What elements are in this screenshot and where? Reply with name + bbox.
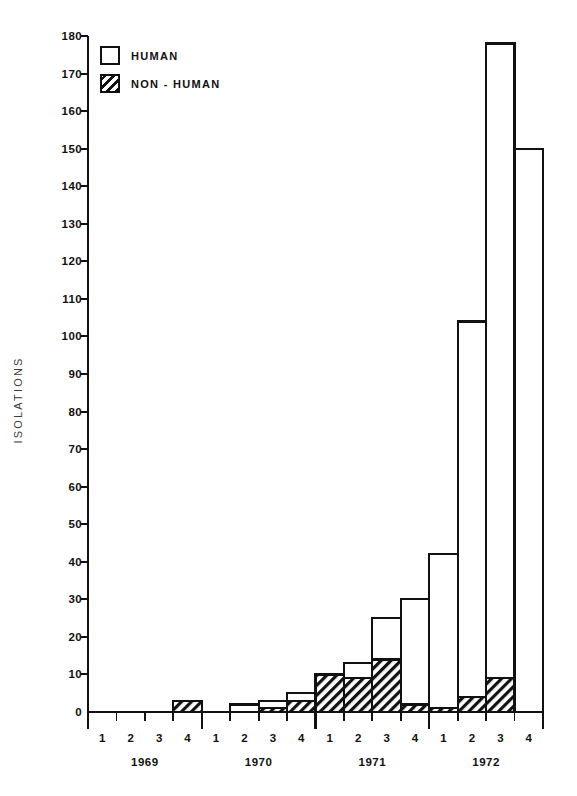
y-axis-tick-label: 40 bbox=[48, 556, 82, 568]
y-axis-tick-label: 100 bbox=[48, 330, 82, 342]
y-axis-tick-label: 150 bbox=[48, 143, 82, 155]
y-axis-tick-label: 180 bbox=[48, 30, 82, 42]
x-axis-quarter-label: 1 bbox=[327, 732, 333, 744]
bar-segment-non-human bbox=[316, 674, 344, 712]
y-axis-tick-labels: 0102030405060708090100110120130140150160… bbox=[42, 0, 82, 796]
bar-segment-non-human bbox=[458, 697, 486, 712]
legend-item: NON - HUMAN bbox=[100, 74, 220, 93]
bar-segment-human bbox=[515, 149, 543, 712]
y-axis-title: ISOLATIONS bbox=[8, 330, 28, 470]
x-axis-year-label: 1969 bbox=[131, 756, 159, 768]
y-axis-title-text: ISOLATIONS bbox=[12, 356, 24, 443]
y-axis-tick-label: 160 bbox=[48, 105, 82, 117]
x-axis-quarter-label: 4 bbox=[298, 732, 304, 744]
y-axis-tick-label: 30 bbox=[48, 593, 82, 605]
legend-label: NON - HUMAN bbox=[131, 78, 220, 90]
bar-segment-non-human bbox=[429, 708, 457, 712]
bar-segment-human bbox=[401, 599, 429, 712]
x-axis-quarter-label: 3 bbox=[497, 732, 503, 744]
x-axis-quarter-label: 2 bbox=[127, 732, 133, 744]
x-axis-year-label: 1970 bbox=[245, 756, 273, 768]
plot-area bbox=[0, 0, 577, 796]
bar-segment-non-human bbox=[372, 659, 400, 712]
y-axis-tick-label: 0 bbox=[48, 706, 82, 718]
y-axis-tick-label: 50 bbox=[48, 518, 82, 530]
x-axis-year-label: 1972 bbox=[472, 756, 500, 768]
x-axis-quarter-label: 3 bbox=[156, 732, 162, 744]
y-axis-tick-label: 10 bbox=[48, 668, 82, 680]
legend-item: HUMAN bbox=[100, 46, 220, 65]
x-axis-quarter-label: 4 bbox=[412, 732, 418, 744]
bar-chart-figure: ISOLATIONS 01020304050607080901001101201… bbox=[0, 0, 577, 796]
x-axis-quarter-label: 3 bbox=[270, 732, 276, 744]
bar-segment-non-human bbox=[287, 701, 315, 712]
x-axis-quarter-label: 2 bbox=[355, 732, 361, 744]
bar-segment-human bbox=[429, 554, 457, 712]
y-axis-tick-label: 170 bbox=[48, 68, 82, 80]
y-axis-tick-label: 20 bbox=[48, 631, 82, 643]
y-axis-tick-label: 110 bbox=[48, 293, 82, 305]
x-axis-quarter-label: 1 bbox=[213, 732, 219, 744]
bar-segment-non-human bbox=[344, 678, 372, 712]
legend-swatch-non-human bbox=[100, 74, 120, 93]
bar-segment-non-human bbox=[259, 708, 287, 712]
x-axis-quarter-label: 3 bbox=[383, 732, 389, 744]
bar-segment-human bbox=[486, 44, 514, 712]
y-axis-tick-label: 90 bbox=[48, 368, 82, 380]
y-axis-tick-label: 140 bbox=[48, 180, 82, 192]
bar-segment-human bbox=[458, 321, 486, 712]
y-axis-tick-label: 60 bbox=[48, 481, 82, 493]
y-axis-tick-label: 130 bbox=[48, 218, 82, 230]
bar-segment-human bbox=[230, 704, 258, 712]
bar-segment-non-human bbox=[173, 701, 201, 712]
x-axis-quarter-label: 1 bbox=[99, 732, 105, 744]
bar-segment-non-human bbox=[401, 704, 429, 712]
legend-swatch-human bbox=[100, 46, 120, 65]
bar-segment-non-human bbox=[486, 678, 514, 712]
x-axis-year-label: 1971 bbox=[359, 756, 387, 768]
chart-legend: HUMANNON - HUMAN bbox=[100, 46, 220, 102]
x-axis-quarter-label: 4 bbox=[526, 732, 532, 744]
y-axis-tick-label: 120 bbox=[48, 255, 82, 267]
x-axis-quarter-label: 2 bbox=[241, 732, 247, 744]
x-axis-quarter-label: 4 bbox=[184, 732, 190, 744]
y-axis-tick-label: 70 bbox=[48, 443, 82, 455]
x-axis-quarter-label: 2 bbox=[469, 732, 475, 744]
x-axis-quarter-label: 1 bbox=[440, 732, 446, 744]
y-axis-tick-label: 80 bbox=[48, 406, 82, 418]
legend-label: HUMAN bbox=[131, 50, 178, 62]
bars-group bbox=[173, 44, 543, 712]
